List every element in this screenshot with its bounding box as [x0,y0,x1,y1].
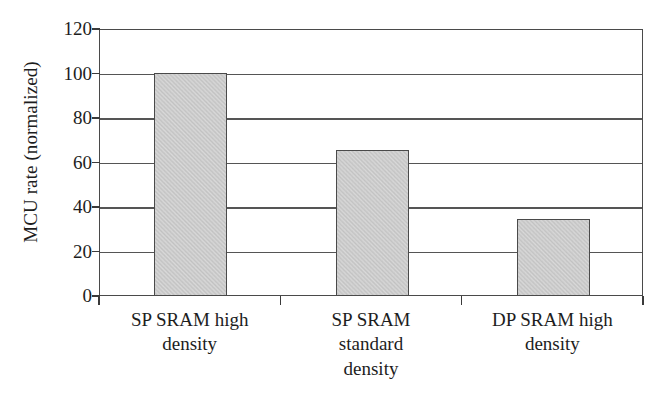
y-axis-title: MCU rate (normalized) [14,4,48,300]
y-axis-tick-mark [92,162,100,164]
y-axis-tick-mark [92,206,100,208]
bar-chart-figure: MCU rate (normalized) 020406080100120 SP… [0,0,667,410]
bar [517,219,590,295]
x-axis-category-label: SP SRAMstandarddensity [280,308,461,381]
y-axis-tick-label: 40 [48,197,92,216]
x-axis-category-label-line: SP SRAM high [99,308,280,332]
x-axis-tick-mark [642,296,644,305]
y-axis-tick-label: 0 [48,286,92,305]
y-axis-tick-label: 60 [48,153,92,172]
x-axis-category-label-line: DP SRAM high [462,308,643,332]
y-axis-tick-label: 20 [48,242,92,261]
x-axis-category-label-line: SP SRAM [280,308,461,332]
y-axis-tick-mark [92,73,100,75]
x-axis-tick-mark [461,296,463,305]
y-axis-tick-mark [92,28,100,30]
y-axis-tick-mark [92,117,100,119]
x-axis-category-label: SP SRAM highdensity [99,308,280,357]
bar [154,73,227,296]
x-axis-category-label-line: density [462,332,643,356]
bar [336,150,409,295]
x-axis-category-label: DP SRAM highdensity [462,308,643,357]
y-axis-tick-labels: 020406080100120 [44,0,92,410]
x-axis-category-label-line: density [280,357,461,381]
x-axis-tick-mark [98,296,100,305]
x-axis-category-label-line: density [99,332,280,356]
plot-area [99,29,643,296]
y-axis-tick-label: 100 [48,64,92,83]
y-axis-tick-mark [92,251,100,253]
y-axis-tick-label: 120 [48,19,92,38]
x-axis-tick-mark [280,296,282,305]
x-axis-category-label-line: standard [280,332,461,356]
y-axis-tick-label: 80 [48,108,92,127]
